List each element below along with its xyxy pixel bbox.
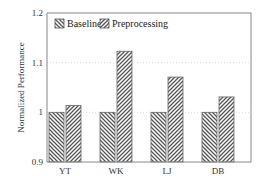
bar-baseline-yt xyxy=(49,112,64,162)
y-tick-label: 1.2 xyxy=(32,8,43,18)
bars xyxy=(49,51,234,162)
bar-baseline-lj xyxy=(151,112,166,162)
y-tick-label: 1 xyxy=(39,107,44,117)
x-tick-label: WK xyxy=(109,166,124,176)
x-tick-label: DB xyxy=(212,166,225,176)
legend: BaselinePreprocessing xyxy=(55,18,168,29)
y-axis-ticks: 0.911.11.2 xyxy=(32,8,44,167)
bar-preprocessing-lj xyxy=(168,77,183,162)
bar-preprocessing-db xyxy=(219,97,234,162)
bar-chart: 0.911.11.2 YTWKLJDB Normalized Performan… xyxy=(0,0,265,185)
bar-preprocessing-wk xyxy=(117,51,132,162)
y-tick-label: 1.1 xyxy=(32,58,43,68)
x-tick-label: LJ xyxy=(163,166,172,176)
y-tick-label: 0.9 xyxy=(32,157,44,167)
legend-label-preprocessing: Preprocessing xyxy=(112,18,168,29)
legend-swatch-baseline xyxy=(55,19,64,28)
y-axis-label: Normalized Performance xyxy=(16,42,26,133)
bar-preprocessing-yt xyxy=(66,105,81,162)
legend-swatch-preprocessing xyxy=(100,19,109,28)
legend-label-baseline: Baseline xyxy=(67,18,102,29)
x-axis-ticks: YTWKLJDB xyxy=(59,166,224,176)
x-tick-label: YT xyxy=(59,166,71,176)
bar-baseline-wk xyxy=(100,112,115,162)
bar-baseline-db xyxy=(202,112,217,162)
